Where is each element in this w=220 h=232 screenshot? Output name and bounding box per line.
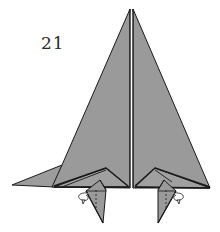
right-fold-arrow-icon xyxy=(174,193,183,201)
origami-diagram xyxy=(0,0,220,232)
model-body xyxy=(12,9,210,188)
left-fold-arrow-icon xyxy=(79,193,88,201)
left-body-half xyxy=(52,9,130,188)
right-body-half xyxy=(133,9,210,188)
